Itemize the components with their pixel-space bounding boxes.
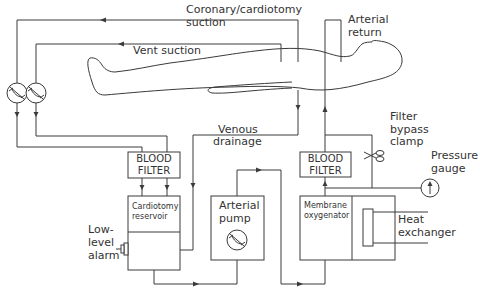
heat-exchanger-label-2: exchanger: [398, 227, 456, 239]
heat-exchanger-label: Heat: [398, 214, 424, 226]
filter-bypass-label: Filter: [390, 111, 417, 123]
blood-filter-left-label: BLOOD: [128, 153, 180, 165]
pressure-gauge-label-2: gauge: [431, 163, 465, 175]
coronary-arrow: [100, 18, 106, 23]
vent-to-filter-line: [36, 103, 167, 152]
scissor-clamp-icon: [364, 151, 384, 162]
arterial-pump-label-2: pump: [219, 213, 251, 225]
arterial-return-label-2: return: [348, 27, 382, 39]
blood-filter-right-label-2: FILTER: [300, 165, 351, 177]
venous-drainage-label-2: drainage: [213, 136, 262, 148]
blood-filter-left-label-2: FILTER: [128, 165, 180, 177]
pressure-gauge-label: Pressure: [431, 150, 478, 162]
arterial-return-label: Arterial: [348, 14, 389, 26]
cardiotomy-reservoir-label-2: reservoir: [132, 212, 168, 222]
coronary-suction-label-2: suction: [186, 17, 226, 29]
arrow-down: [34, 112, 39, 117]
roller-pump-icon: [26, 83, 46, 103]
low-level-alarm-label: Low-: [88, 224, 114, 236]
arrow-down: [15, 112, 20, 117]
coronary-suction-label: Coronary/cardiotomy: [186, 4, 302, 16]
heat-exchanger: [363, 209, 373, 246]
pressure-gauge-icon: [421, 179, 439, 197]
arterial-return-line: [325, 20, 341, 152]
arterial-pump-label: Arterial: [219, 200, 260, 212]
vent-arrow: [118, 42, 124, 47]
filter-to-reservoir-lines: [142, 178, 167, 196]
membrane-oxygenator-label: Membrane: [304, 201, 347, 211]
low-level-alarm-label-2: level: [88, 237, 114, 249]
low-level-alarm-label-3: alarm: [88, 250, 120, 262]
membrane-oxygenator-label-2: oxygenator: [304, 211, 349, 221]
filter-bypass-label-3: clamp: [390, 136, 424, 148]
roller-pump-icon: [7, 83, 27, 103]
blood-filter-right-label: BLOOD: [300, 153, 351, 165]
cardiotomy-reservoir-label: Cardiotomy: [132, 202, 178, 212]
roller-pump-icon: [227, 230, 247, 250]
vent-suction-label: Vent suction: [133, 45, 201, 57]
